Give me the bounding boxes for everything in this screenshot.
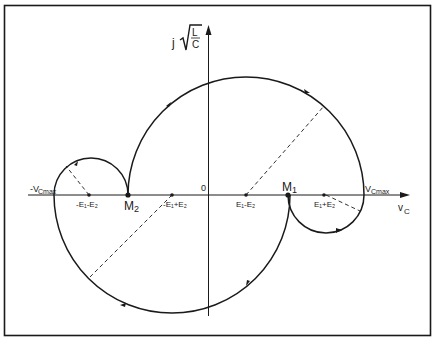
marker-e1-minus-e2 (244, 193, 248, 197)
label-e1-plus-e2: E₁+E₂ (314, 200, 335, 209)
label-neg-e1-plus-e2: -E₁+E₂ (163, 200, 187, 209)
frame-border (5, 6, 431, 336)
radius-lines (66, 106, 360, 279)
y-axis-label-denominator: C (192, 39, 199, 50)
label-neg-vcmax-sub: Cmax (38, 188, 57, 195)
labels: j L C v C 0 -V Cmax -E₁-E₂ M 2 -E₁+E₂ E₁… (30, 25, 410, 216)
y-axis-label-numerator: L (192, 27, 198, 38)
x-axis-label-sub: C (404, 207, 410, 216)
marker-m2 (125, 192, 130, 197)
upper-small-arc (54, 158, 128, 195)
marker-neg-e1-plus-e2 (170, 193, 174, 197)
x-axis-label: v (398, 202, 403, 213)
upper-large-arc (128, 77, 364, 195)
marker-e1-plus-e2 (322, 193, 326, 197)
direction-arrow-icon (304, 89, 310, 93)
y-axis-arrow-icon (206, 25, 212, 35)
label-m2-sub: 2 (134, 204, 139, 214)
x-axis (28, 192, 410, 198)
label-neg-e1-minus-e2: -E₁-E₂ (76, 200, 98, 209)
radius-line-neg-e1-minus-e2 (66, 166, 89, 195)
label-e1-minus-e2: E₁-E₂ (236, 200, 255, 209)
label-m1: M (282, 180, 292, 194)
phase-plane-diagram: j L C v C 0 -V Cmax -E₁-E₂ M 2 -E₁+E₂ E₁… (0, 0, 433, 340)
label-vcmax-sub: Cmax (371, 188, 390, 195)
y-axis (206, 25, 212, 316)
label-m2: M (124, 199, 134, 213)
y-axis-label-j: j (171, 36, 175, 50)
lower-large-arc (54, 195, 290, 313)
origin-label: 0 (201, 183, 206, 193)
x-axis-arrow-icon (400, 192, 410, 198)
marker-neg-e1-minus-e2 (87, 193, 91, 197)
direction-arrow-icon (120, 303, 126, 307)
label-m1-sub: 1 (292, 185, 297, 195)
